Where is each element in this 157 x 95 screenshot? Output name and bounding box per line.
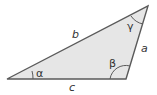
- triangle-svg: b a c α β γ: [0, 0, 157, 95]
- side-c-label: c: [69, 81, 75, 94]
- side-b-label: b: [72, 28, 79, 41]
- angle-beta-label: β: [109, 57, 116, 70]
- triangle-shape: [7, 6, 148, 79]
- side-a-label: a: [141, 42, 148, 55]
- triangle-diagram: b a c α β γ: [0, 0, 157, 95]
- angle-alpha-label: α: [36, 67, 43, 80]
- angle-gamma-label: γ: [127, 20, 134, 33]
